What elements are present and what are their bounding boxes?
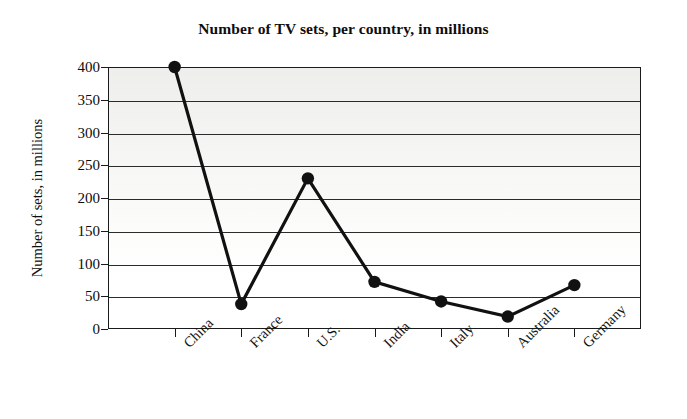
x-axis-category-label: India bbox=[381, 340, 392, 351]
x-axis-category-label: Italy bbox=[447, 340, 458, 351]
x-axis-category-labels: ChinaFranceU.S.IndiaItalyAustraliaGerman… bbox=[0, 0, 687, 419]
x-axis-category-label: France bbox=[247, 340, 258, 351]
x-axis-category-label: U.S. bbox=[314, 340, 325, 351]
chart-figure: Number of TV sets, per country, in milli… bbox=[0, 0, 687, 419]
x-axis-category-label: Australia bbox=[514, 340, 525, 351]
x-axis-category-label: China bbox=[181, 340, 192, 351]
x-axis-category-label: Germany bbox=[580, 340, 591, 351]
